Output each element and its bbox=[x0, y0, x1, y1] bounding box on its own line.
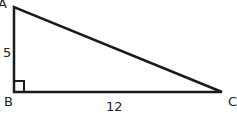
triangle-diagram bbox=[0, 0, 237, 113]
side-label-bc: 12 bbox=[106, 100, 123, 113]
vertex-label-a: A bbox=[0, 0, 7, 10]
vertex-label-b: B bbox=[4, 95, 13, 108]
side-label-ab: 5 bbox=[3, 46, 11, 59]
triangle-abc bbox=[14, 7, 222, 92]
right-angle-marker bbox=[14, 81, 24, 92]
vertex-label-c: C bbox=[228, 95, 237, 108]
